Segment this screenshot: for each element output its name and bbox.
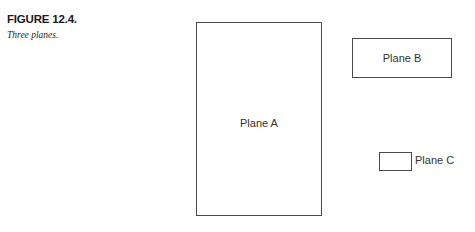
figure-caption-title: FIGURE 12.4. [7, 13, 97, 26]
plane-b-label: Plane B [353, 52, 451, 64]
figure-canvas: FIGURE 12.4. Three planes. Plane A Plane… [0, 0, 475, 232]
plane-b-rectangle: Plane B [352, 38, 452, 78]
figure-caption-subtitle: Three planes. [7, 29, 97, 41]
plane-c-rectangle [379, 152, 412, 171]
plane-a-rectangle: Plane A [196, 22, 322, 216]
plane-c-label: Plane C [415, 154, 454, 166]
plane-a-label: Plane A [197, 117, 321, 129]
figure-caption: FIGURE 12.4. Three planes. [7, 13, 97, 41]
